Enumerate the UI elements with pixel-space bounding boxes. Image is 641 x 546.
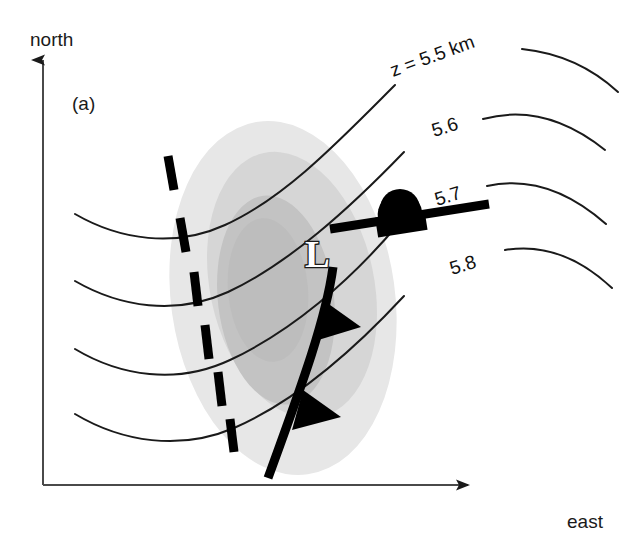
contour-line-5.6-right	[483, 114, 605, 150]
trough-dash-3	[194, 272, 198, 306]
low-pressure-center-label: L	[305, 234, 330, 275]
panel-label-a: (a)	[72, 93, 95, 114]
trough-dash-6	[230, 419, 234, 452]
low-pressure-L-glyph: L	[305, 234, 330, 275]
contour-line-5.5-right	[522, 49, 618, 92]
contour-label-5.8: 5.8	[447, 251, 478, 279]
x-axis-label-east: east	[567, 511, 604, 532]
trough-dash-1	[168, 156, 174, 190]
trough-dash-4	[205, 325, 209, 359]
contour-line-5.7-right	[487, 183, 606, 224]
y-axis-label-north: north	[30, 29, 73, 50]
figure-panel-a: L z = 5.5 km 5.6 5.7 5.8 north east (a)	[0, 0, 641, 546]
trough-dash-5	[218, 372, 222, 406]
contour-label-5.5: z = 5.5 km	[387, 31, 477, 81]
trough-dash-2	[180, 218, 186, 252]
contour-label-5.6: 5.6	[429, 113, 460, 141]
contour-line-5.8-right	[505, 248, 612, 288]
